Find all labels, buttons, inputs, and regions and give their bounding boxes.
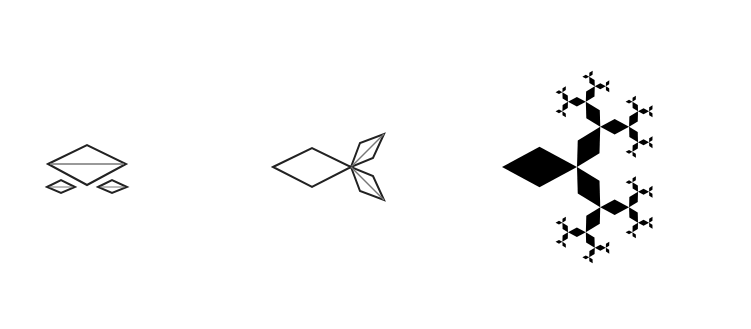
fractal-rhombus [649, 111, 652, 117]
fractal-rhombus [632, 142, 638, 152]
fractal-rhombus [632, 223, 638, 233]
fractal-rhombus [577, 127, 600, 167]
fractal-rhombus [556, 90, 563, 94]
fractal-rhombus [577, 167, 600, 207]
fractal-rhombus [638, 220, 649, 226]
fractal-rhombus [632, 232, 635, 238]
fractal-rhombus [562, 232, 568, 242]
fractal-rhombus [606, 242, 609, 248]
fractal-rhombus [589, 77, 595, 87]
fractal-rhombus [649, 142, 652, 148]
fractal-rhombus [649, 223, 652, 229]
fractal-rhombus [562, 86, 565, 92]
fractal-rhombus [582, 75, 589, 79]
fractal-rhombus [649, 105, 652, 111]
fractal-rhombus [626, 230, 633, 234]
fractal-rhombus [638, 108, 649, 114]
stage-2-main-rhombus [273, 148, 351, 187]
fractal-rhombus [556, 110, 563, 114]
fractal-rhombus [556, 240, 563, 244]
fractal-rhombus [589, 248, 595, 258]
stage-2-upper-axis [351, 134, 384, 167]
fractal-diagram [0, 0, 751, 329]
stage-2-figure [273, 134, 384, 200]
fractal-rhombus [586, 207, 600, 232]
fractal-rhombus [606, 86, 609, 92]
fractal-rhombus [589, 71, 592, 77]
fractal-rhombus [568, 97, 586, 107]
stage-1-figure [47, 145, 127, 193]
fractal-rhombus [562, 217, 565, 223]
fractal-rhombus [629, 111, 638, 126]
fractal-rhombus [562, 111, 565, 117]
fractal-rhombus [629, 207, 638, 222]
stage-3-fractal [502, 71, 653, 264]
fractal-rhombus [562, 223, 568, 233]
fractal-rhombus [586, 102, 600, 127]
fractal-rhombus [562, 242, 565, 248]
fractal-rhombus [600, 119, 629, 135]
fractal-rhombus [626, 100, 633, 104]
fractal-rhombus [632, 176, 635, 182]
fractal-rhombus [606, 80, 609, 86]
fractal-rhombus [562, 92, 568, 102]
fractal-rhombus [568, 227, 586, 237]
fractal-rhombus [626, 150, 633, 154]
fractal-rhombus [600, 199, 629, 215]
fractal-rhombus [649, 136, 652, 142]
fractal-rhombus [632, 96, 635, 102]
fractal-rhombus [638, 139, 649, 145]
fractal-rhombus [626, 180, 633, 184]
fractal-rhombus [632, 102, 638, 112]
fractal-rhombus [586, 232, 595, 247]
fractal-rhombus [638, 189, 649, 195]
fractal-rhombus [632, 182, 638, 192]
stage-1-main-rhombus [48, 145, 126, 185]
fractal-rhombus [595, 83, 606, 89]
fractal-rhombus [632, 152, 635, 158]
fractal-rhombus [582, 255, 589, 259]
fractal-rhombus [649, 192, 652, 198]
fractal-rhombus [606, 248, 609, 254]
fractal-rhombus [562, 102, 568, 112]
fractal-rhombus [502, 147, 577, 188]
stage-2-lower-axis [351, 167, 384, 200]
fractal-rhombus [586, 86, 595, 101]
fractal-rhombus [589, 257, 592, 263]
fractal-rhombus [649, 217, 652, 223]
fractal-rhombus [556, 221, 563, 225]
fractal-rhombus [649, 186, 652, 192]
fractal-rhombus [595, 245, 606, 251]
fractal-rhombus [629, 127, 638, 142]
fractal-rhombus [629, 192, 638, 207]
